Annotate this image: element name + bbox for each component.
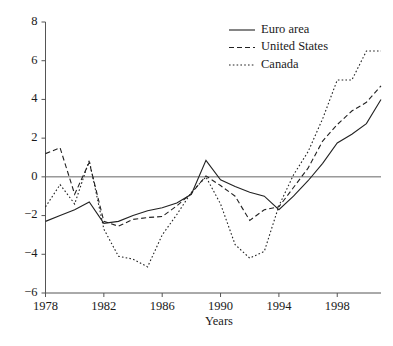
- y-axis-tick-label: 4: [31, 91, 38, 105]
- series-line-euro-area: [46, 99, 382, 223]
- axes-group: [42, 22, 382, 297]
- chart-container: −6−4−202468 197819821986199019941998 Eur…: [0, 0, 393, 346]
- x-axis-tick-label: 1990: [208, 299, 233, 313]
- y-axis-tick-label: 6: [31, 53, 37, 67]
- x-axis-tick-label: 1994: [266, 299, 292, 313]
- x-axis-tick-label: 1986: [150, 299, 175, 313]
- y-axis-tick-label: −4: [24, 246, 38, 260]
- y-axis-tick-label: −6: [24, 285, 37, 299]
- x-axis-tick-label: 1978: [33, 299, 58, 313]
- series-line-canada: [46, 51, 382, 267]
- x-axis-tick-label: 1998: [325, 299, 350, 313]
- x-axis-title: Years: [205, 314, 233, 328]
- legend-group: Euro areaUnited StatesCanada: [229, 22, 328, 71]
- legend-label: United States: [261, 39, 328, 53]
- y-axis-tick-label: 2: [31, 130, 37, 144]
- legend-label: Canada: [261, 57, 299, 71]
- ytick-labels-group: −6−4−202468: [24, 14, 38, 299]
- x-axis-tick-label: 1982: [91, 299, 116, 313]
- legend-label: Euro area: [261, 22, 310, 36]
- xtick-labels-group: 197819821986199019941998: [33, 299, 350, 313]
- y-axis-tick-label: 0: [31, 169, 37, 183]
- series-line-united-states: [46, 86, 382, 226]
- line-chart: −6−4−202468 197819821986199019941998 Eur…: [0, 0, 393, 346]
- series-group: [46, 51, 382, 267]
- y-axis-tick-label: 8: [31, 14, 37, 28]
- y-axis-tick-label: −2: [24, 207, 37, 221]
